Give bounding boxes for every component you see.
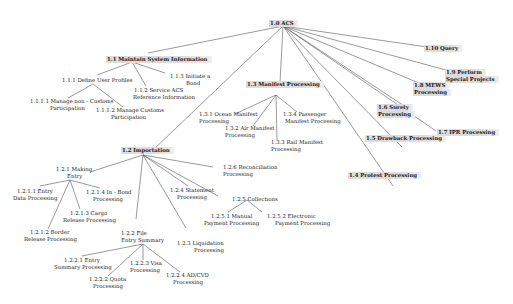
node-1-1: 1.1 Maintain System Information <box>106 56 212 63</box>
node-1-2-1-1-cont: Data Processing <box>13 195 57 202</box>
node-1-3-4-cont: Manifest Processing <box>285 118 341 125</box>
node-1-5: 1.5 Drawback Processing <box>365 135 446 142</box>
node-1-2-5: 1.2.5 Collections <box>232 196 278 203</box>
node-1-6-cont: Processing <box>377 111 415 118</box>
node-1-2-1-3-cont: Release Processing <box>63 217 116 224</box>
node-1-3-2-cont: Processing <box>225 132 255 139</box>
node-1-2-2-3-cont: Processing <box>130 267 160 274</box>
node-1-1-3: 1.1.3 Initiate a <box>170 73 210 80</box>
node-1-1-3-cont: Bond <box>186 80 200 87</box>
node-1-2-1-3: 1.2.1.3 Cargo <box>70 210 107 217</box>
node-1-2-2-cont: Entry Summary <box>121 237 164 244</box>
node-1-2-1-cont: Entry <box>67 173 82 180</box>
node-1-2: 1.2 Importation <box>121 147 174 154</box>
node-1-2-5-1: 1.2.5.1 Manual <box>211 213 252 220</box>
node-1-2-4: 1.2.4 Statement <box>170 187 214 194</box>
node-1-7: 1.7 IPR Processing <box>437 129 499 136</box>
node-1-2-6-cont: Processing <box>223 171 253 178</box>
node-1-8: 1.8 MEWS <box>413 82 449 89</box>
node-1-3-3-cont: Processing <box>271 146 301 153</box>
node-1-2-5-2: 1.2.5.2 Electronic <box>267 213 316 220</box>
node-1-2-2: 1.2.2 File <box>121 230 147 237</box>
node-1-0: 1.0 ACS <box>269 20 298 27</box>
node-1-1-1-1-cont: Participation <box>50 105 85 112</box>
node-1-2-4-cont: Processing <box>177 194 207 201</box>
node-1-2-1-4: 1.2.1.4 In - Bond <box>86 189 132 196</box>
node-1-1-1-2-cont: Participation <box>111 114 146 121</box>
node-1-2-1-2: 1.2.1.2 Border <box>30 229 70 236</box>
node-1-1-1-1: 1.1.1.1 Manage non - Customs <box>30 98 113 105</box>
node-1-9: 1.9 Perform <box>445 69 486 76</box>
node-1-2-1: 1.2.1 Making <box>56 166 92 173</box>
node-1-2-2-2-cont: Processing <box>93 283 123 290</box>
node-1-3-1-cont: Processing <box>199 118 229 125</box>
node-1-2-2-1: 1.2.2.1 Entry <box>64 257 100 264</box>
node-1-3-1: 1.3.1 Ocean Manifest <box>199 111 258 118</box>
node-1-1-2-cont: Reference Information <box>133 94 195 101</box>
node-1-3: 1.3 Manifest Processing <box>246 81 324 88</box>
node-1-2-1-4-cont: Processing <box>93 196 123 203</box>
node-1-2-5-2-cont: Payment Processing <box>275 220 330 227</box>
node-1-4: 1.4 Protest Processing <box>348 172 421 179</box>
node-1-9-cont: Special Projects <box>445 76 499 83</box>
node-1-3-2: 1.3.2 Air Manifest <box>225 125 274 132</box>
node-1-2-6: 1.2.6 Reconciliation <box>223 164 277 171</box>
node-1-6: 1.6 Surety <box>377 104 413 111</box>
node-1-1-2: 1.1.2 Service ACS <box>134 87 183 94</box>
node-1-2-3-cont: Processing <box>194 247 224 254</box>
node-1-2-2-4-cont: Processing <box>173 279 203 286</box>
node-1-1-1: 1.1.1 Define User Profiles <box>62 77 132 84</box>
node-1-2-1-2-cont: Release Processing <box>24 236 77 243</box>
node-1-8-cont: Processing <box>413 89 451 96</box>
node-1-3-4: 1.3.4 Passenger <box>283 111 326 118</box>
node-1-2-2-3: 1.2.2.3 Visa <box>130 260 162 267</box>
node-1-10: 1.10 Query <box>424 45 462 52</box>
node-1-2-1-1: 1.2.1.1 Entry <box>17 188 53 195</box>
node-1-2-5-1-cont: Payment Processing <box>204 220 259 227</box>
node-1-2-2-1-cont: Summary Processing <box>54 264 112 271</box>
node-1-1-1-2: 1.1.1.2 Manage Customs <box>96 107 164 114</box>
node-1-2-3: 1.2.3 Liquidation <box>177 240 224 247</box>
node-1-3-3: 1.3.3 Rail Manifest <box>271 139 323 146</box>
node-1-2-2-4: 1.2.2.4 AD/CVD <box>166 272 209 279</box>
node-1-2-2-2: 1.2.2.2 Quota <box>89 276 126 283</box>
